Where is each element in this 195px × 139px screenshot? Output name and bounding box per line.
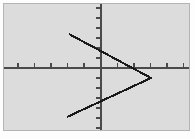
plot-canvas: [4, 4, 189, 130]
plot-frame: [3, 3, 190, 131]
plot-surface: [4, 4, 189, 130]
plotted-curve: [67, 34, 151, 117]
graph-screenshot: [0, 0, 195, 139]
